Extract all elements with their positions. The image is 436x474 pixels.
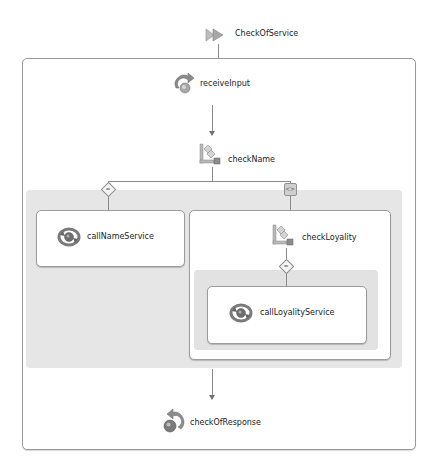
- activity-call-name-service[interactable]: callNameService: [36, 210, 185, 267]
- arrow-head-icon: [209, 131, 215, 136]
- connector: [212, 105, 213, 132]
- connector: [286, 273, 287, 286]
- activity-label: checkOfResponse: [190, 418, 261, 428]
- connector: [290, 196, 291, 210]
- process-name: CheckOfService: [235, 29, 298, 39]
- activity-label: checkName: [228, 155, 275, 165]
- connector: [212, 369, 213, 396]
- otherwise-glyph: <>: [284, 185, 296, 193]
- receive-icon: [172, 72, 196, 96]
- activity-check-loyality[interactable]: checkLoyality: [270, 223, 370, 249]
- reply-icon: [161, 409, 187, 435]
- activity-check-of-response[interactable]: checkOfResponse: [160, 408, 270, 436]
- switch-icon: [271, 223, 295, 247]
- activity-label: callNameService: [87, 232, 154, 242]
- activity-label: receiveInput: [200, 79, 250, 89]
- connector: [108, 196, 109, 210]
- connector: [212, 167, 213, 181]
- invoke-icon: [229, 302, 253, 324]
- branch-line: [108, 181, 291, 182]
- case-glyph: =: [102, 185, 114, 193]
- case-glyph: =: [280, 262, 292, 270]
- connector: [218, 44, 219, 59]
- activity-call-loyality-service[interactable]: callLoyalityService: [207, 286, 367, 344]
- activity-label: callLoyalityService: [260, 308, 334, 318]
- arrow-head-icon: [209, 395, 215, 400]
- process-start[interactable]: CheckOfService: [203, 26, 323, 44]
- activity-label: checkLoyality: [302, 233, 357, 243]
- invoke-icon: [57, 226, 81, 248]
- activity-check-name[interactable]: checkName: [196, 141, 296, 167]
- activity-receive-input[interactable]: receiveInput: [170, 70, 270, 98]
- switch-icon: [198, 142, 222, 166]
- process-flag-icon: [205, 28, 225, 42]
